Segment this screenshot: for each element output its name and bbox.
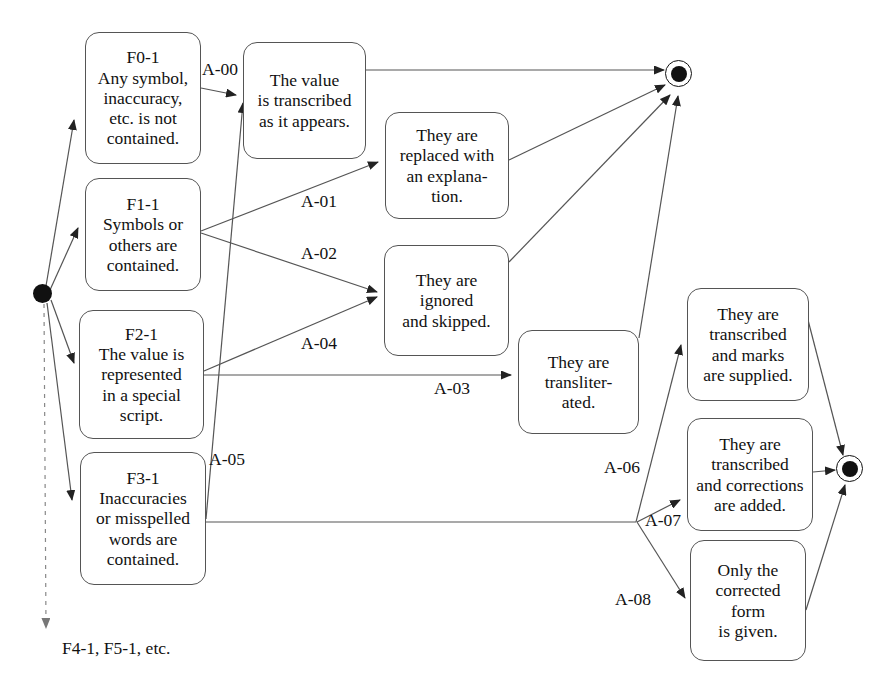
action-box-transcribed-as-appears[interactable]: The value is transcribed as it appears. (243, 42, 366, 159)
action-box-replaced-explanation[interactable]: They are replaced with an explana- tion. (385, 112, 509, 219)
edge-init-to-F2-1 (51, 300, 74, 363)
edge-label-a-06: A-06 (604, 457, 640, 478)
edge-replaced-to-final-top (509, 85, 665, 160)
edge-F3-1-to-corrected-form (637, 522, 685, 598)
action-text-transcribed-as-appears: The value is transcribed as it appears. (249, 70, 360, 131)
condition-box-f0-1[interactable]: F0-1 Any symbol, inaccuracy, etc. is not… (85, 32, 201, 164)
action-box-ignored-skipped[interactable]: They are ignored and skipped. (384, 245, 509, 356)
edge-F0-1-to-transcribed (201, 88, 236, 95)
action-text-replaced-explanation: They are replaced with an explana- tion. (391, 125, 503, 206)
edge-init-to-F3-1 (47, 303, 72, 500)
action-box-corrections-added[interactable]: They are transcribed and corrections are… (687, 418, 813, 531)
action-text-corrections-added: They are transcribed and corrections are… (693, 434, 807, 515)
edge-label-a-08: A-08 (615, 589, 651, 610)
final-state-node-top (665, 60, 692, 87)
condition-box-f3-1[interactable]: F3-1 Inaccuracies or misspelled words ar… (80, 452, 206, 585)
condition-box-f1-1[interactable]: F1-1 Symbols or others are contained. (85, 178, 201, 291)
action-text-corrected-form: Only the corrected form is given. (696, 560, 800, 641)
note-more-conditions: F4-1, F5-1, etc. (62, 638, 170, 659)
edge-F1-1-to-ignored (201, 233, 377, 292)
edge-F3-1-to-marks-supplied (636, 345, 681, 522)
edge-label-a-07: A-07 (645, 510, 681, 531)
edge-init-to-more-conditions (44, 304, 46, 628)
condition-text-f3-1: F3-1 Inaccuracies or misspelled words ar… (86, 468, 200, 569)
action-box-transliterated[interactable]: They are transliter- ated. (518, 330, 639, 434)
action-text-transliterated: They are transliter- ated. (524, 352, 633, 413)
action-box-corrected-form[interactable]: Only the corrected form is given. (690, 540, 806, 661)
final-state-node-right (836, 455, 863, 482)
edge-ignored-to-final-top (509, 95, 670, 262)
diagram-canvas: F0-1 Any symbol, inaccuracy, etc. is not… (0, 0, 892, 693)
condition-text-f1-1: F1-1 Symbols or others are contained. (91, 194, 195, 275)
edge-init-to-F0-1 (46, 120, 74, 286)
action-text-marks-supplied: They are transcribed and marks are suppl… (693, 304, 803, 385)
action-box-marks-supplied[interactable]: They are transcribed and marks are suppl… (687, 288, 809, 401)
edge-transliterated-to-final-top (639, 96, 678, 338)
condition-text-f0-1: F0-1 Any symbol, inaccuracy, etc. is not… (91, 47, 195, 148)
edge-label-a-00: A-00 (202, 59, 238, 80)
edge-F1-1-to-replaced (201, 162, 378, 231)
edge-init-to-F1-1 (50, 228, 78, 290)
edge-F2-1-to-ignored (204, 297, 377, 371)
edge-label-a-02: A-02 (301, 243, 337, 264)
edge-label-a-05: A-05 (209, 449, 245, 470)
edge-label-a-01: A-01 (301, 191, 337, 212)
condition-box-f2-1[interactable]: F2-1 The value is represented in a speci… (79, 310, 204, 439)
action-text-ignored-skipped: They are ignored and skipped. (390, 270, 503, 331)
initial-state-node (33, 284, 52, 303)
condition-text-f2-1: F2-1 The value is represented in a speci… (85, 324, 198, 425)
edge-label-a-03: A-03 (434, 378, 470, 399)
edge-marks-supplied-to-final-right (808, 320, 843, 455)
edge-label-a-04: A-04 (301, 333, 337, 354)
edge-corrections-added-to-final-right (813, 470, 835, 472)
